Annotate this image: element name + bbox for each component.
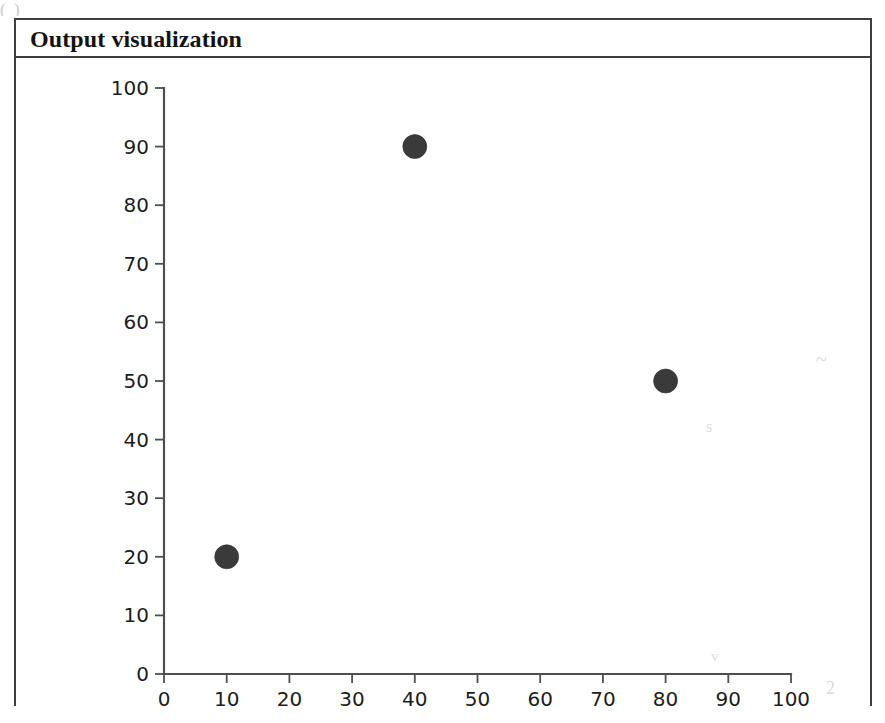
scatter-plot-svg: 0102030405060708090100010203040506070809…	[16, 58, 870, 706]
x-tick-label: 50	[465, 687, 490, 706]
y-tick-label: 20	[124, 545, 149, 569]
figure-header-bar: Output visualization	[16, 20, 870, 58]
y-tick-label: 100	[111, 76, 149, 100]
x-tick-label: 100	[772, 687, 810, 706]
page-title: Output visualization	[30, 26, 242, 53]
y-tick-label: 10	[124, 603, 149, 627]
y-tick-label: 50	[124, 369, 149, 393]
x-tick-label: 0	[158, 687, 171, 706]
x-tick-label: 40	[402, 687, 427, 706]
x-tick-label: 70	[590, 687, 615, 706]
ticks-group	[155, 88, 791, 683]
data-point	[654, 369, 678, 393]
x-tick-label: 60	[527, 687, 552, 706]
x-tick-label: 90	[716, 687, 741, 706]
y-tick-label: 80	[124, 193, 149, 217]
x-tick-label: 80	[653, 687, 678, 706]
tick-labels-group: 0102030405060708090100010203040506070809…	[111, 76, 810, 706]
x-tick-label: 20	[277, 687, 302, 706]
data-point	[403, 135, 427, 159]
axes-group	[164, 88, 791, 674]
y-tick-label: 30	[124, 486, 149, 510]
x-tick-label: 30	[339, 687, 364, 706]
plot-area: 0102030405060708090100010203040506070809…	[16, 58, 870, 706]
x-tick-label: 10	[214, 687, 239, 706]
y-tick-label: 40	[124, 428, 149, 452]
data-points-group	[215, 135, 678, 569]
data-point	[215, 545, 239, 569]
y-tick-label: 70	[124, 252, 149, 276]
y-tick-label: 90	[124, 135, 149, 159]
scan-artifact-top: ( )	[0, 0, 885, 16]
y-tick-label: 60	[124, 310, 149, 334]
figure-frame: Output visualization 0102030405060708090…	[14, 18, 872, 706]
y-tick-label: 0	[136, 662, 149, 686]
